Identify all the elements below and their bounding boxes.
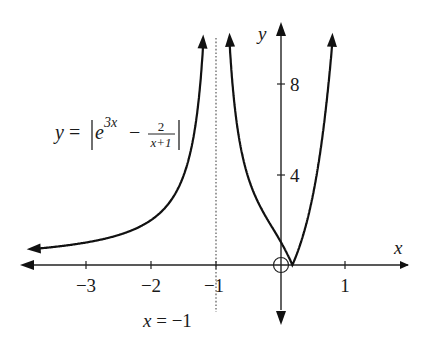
svg-text:=: = [69, 121, 80, 143]
y-axis-up-arrow-icon [276, 22, 286, 36]
x-tick-label: 1 [340, 275, 350, 296]
function-graph: −3 −2 −1 1 8 4 x y x = −1 y = e 3x − 2 x… [0, 0, 422, 349]
svg-text:−: − [129, 121, 140, 143]
y-tick-label: 4 [290, 165, 300, 186]
equation-label: y = e 3x − 2 x+1 [53, 115, 179, 150]
curve-left-top-arrow-icon [198, 35, 208, 49]
x-tick-label: −1 [204, 275, 224, 296]
curve-right-branch-descending [230, 41, 289, 257]
svg-text:y: y [53, 121, 64, 144]
y-tick-label: 8 [290, 74, 300, 95]
asymptote-label: x = −1 [142, 310, 192, 331]
svg-text:e: e [95, 121, 104, 143]
svg-text:2: 2 [158, 119, 165, 134]
x-axis-left-arrow-icon [20, 260, 34, 270]
x-tick-label: −2 [141, 275, 161, 296]
x-tick-label: −3 [76, 275, 96, 296]
svg-text:x+1: x+1 [149, 135, 171, 150]
curve-left-end-arrow-icon [27, 243, 41, 253]
curve-right-top-arrow-icon [327, 33, 337, 47]
x-axis-label: x [393, 237, 403, 258]
svg-text:3x: 3x [103, 115, 118, 130]
curve-middle-top-arrow-icon [225, 33, 235, 47]
y-axis-label: y [256, 23, 267, 44]
curve-left-branch [33, 43, 204, 250]
y-axis-down-arrow-icon [276, 311, 286, 325]
